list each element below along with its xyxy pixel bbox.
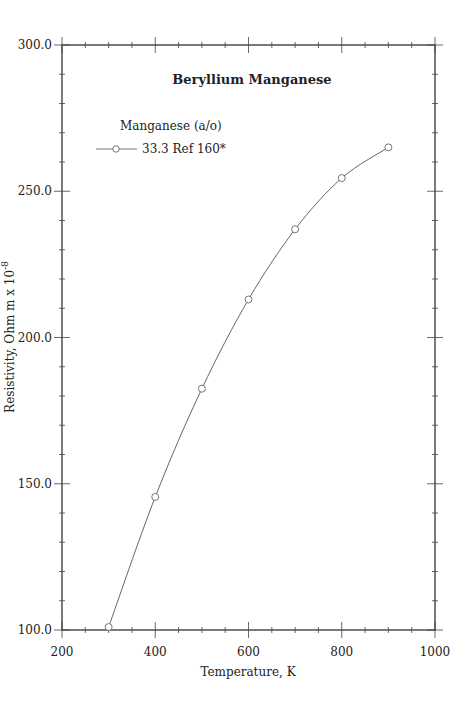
x-axis-label: Temperature, K <box>200 665 296 679</box>
y-tick-label: 200.0 <box>18 331 52 345</box>
data-point-marker <box>245 296 252 303</box>
y-axis-label: Resistivity, Ohm m x 10-8 <box>0 261 17 413</box>
plot-frame <box>62 45 435 630</box>
data-point-marker <box>198 385 205 392</box>
data-point-marker <box>385 144 392 151</box>
series-line <box>109 147 389 627</box>
legend-title: Manganese (a/o) <box>120 119 222 133</box>
data-point-marker <box>292 226 299 233</box>
data-point-marker <box>152 493 159 500</box>
data-point-marker <box>105 624 112 631</box>
y-tick-label: 100.0 <box>18 623 52 637</box>
legend-entry: 33.3 Ref 160* <box>96 142 226 156</box>
y-axis-label-group: Resistivity, Ohm m x 10-8 <box>0 261 17 413</box>
axis-ticks: 2004006008001000100.0150.0200.0250.0300.… <box>18 37 451 659</box>
legend-entry-label: 33.3 Ref 160* <box>142 142 226 156</box>
y-tick-label: 150.0 <box>18 477 52 491</box>
y-axis-label-exponent: -8 <box>0 261 10 270</box>
legend-marker-icon <box>113 146 119 152</box>
x-tick-label: 1000 <box>420 645 451 659</box>
data-point-marker <box>338 175 345 182</box>
y-tick-label: 250.0 <box>18 184 52 198</box>
chart-title: Beryllium Manganese <box>172 72 331 87</box>
x-tick-label: 800 <box>330 645 353 659</box>
y-axis-label-text: Resistivity, Ohm m x 10 <box>3 270 17 413</box>
y-tick-label: 300.0 <box>18 38 52 52</box>
data-series <box>105 144 392 631</box>
x-tick-label: 200 <box>51 645 74 659</box>
x-tick-label: 600 <box>237 645 260 659</box>
resistivity-chart: 2004006008001000100.0150.0200.0250.0300.… <box>0 0 472 704</box>
x-tick-label: 400 <box>144 645 167 659</box>
